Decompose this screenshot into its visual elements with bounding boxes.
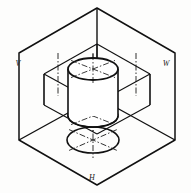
isometric-drawing-canvas: V W H [0, 0, 191, 193]
label-vertical-plane: V [16, 59, 22, 68]
label-profile-plane: W [163, 59, 171, 68]
label-horizontal-plane: H [88, 173, 96, 182]
cylinder-solid [68, 54, 118, 127]
technical-drawing-figure: V W H [0, 0, 191, 193]
